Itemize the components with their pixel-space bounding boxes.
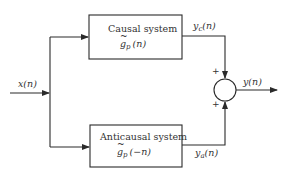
g-subscript: p (126, 43, 130, 51)
summer-top-plus: + (212, 66, 220, 76)
g-argument: (n) (133, 38, 147, 49)
g-tilde: g (117, 146, 123, 157)
causal-system-block (89, 15, 182, 59)
summing-junction (214, 79, 236, 101)
summer-bottom-plus: + (212, 99, 220, 109)
ya-argument: (n) (205, 147, 219, 158)
causal-block-title: Causal system (108, 23, 177, 34)
g-subscript: p (123, 151, 127, 159)
causal-block-function: gp(n) (120, 38, 146, 51)
g-argument: (−n) (130, 146, 152, 157)
causal-output-label: yc(n) (193, 20, 216, 33)
anticausal-output-label: ya(n) (195, 147, 218, 160)
anticausal-block-title: Anticausal system (100, 131, 187, 142)
output-label: y(n) (243, 76, 262, 87)
g-tilde: g (120, 38, 126, 49)
yc-argument: (n) (202, 20, 216, 31)
input-label: x(n) (18, 78, 37, 89)
anticausal-block-function: gp(−n) (117, 146, 151, 159)
